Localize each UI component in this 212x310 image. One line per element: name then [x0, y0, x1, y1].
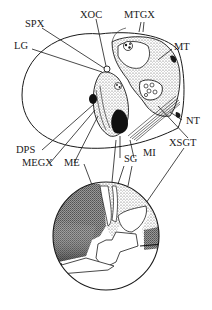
label-mi: MI — [143, 147, 156, 158]
label-lg: LG — [14, 40, 28, 51]
label-spx: SPX — [25, 18, 45, 29]
label-xoc: XOC — [80, 9, 102, 20]
label-mtgx: MTGX — [124, 9, 155, 20]
label-megx: MEGX — [22, 157, 53, 168]
label-me: ME — [64, 157, 80, 168]
eyestalk-diagram: SPX XOC MTGX LG MT NT DPS XSGT MI SG MEG… — [0, 0, 212, 310]
label-xsgt: XSGT — [169, 137, 197, 148]
label-dps: DPS — [16, 144, 35, 155]
label-mt: MT — [174, 41, 190, 52]
label-nt: NT — [186, 115, 201, 126]
detail-circle — [50, 180, 162, 292]
medulla-lobes — [89, 66, 129, 136]
label-sg: SG — [124, 153, 138, 164]
